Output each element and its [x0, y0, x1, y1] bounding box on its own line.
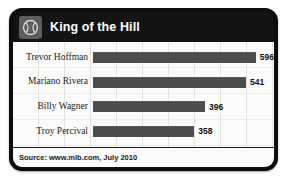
bar-track: 396: [93, 101, 274, 112]
bar-value-label: 541: [250, 78, 264, 87]
bar-track: 358: [93, 126, 274, 137]
bar-category-label: Troy Percival: [13, 127, 93, 137]
chart-footer: Source: www.mlb.com, July 2010: [13, 147, 274, 167]
table-row: Billy Wagner 396: [13, 101, 274, 113]
bar-track: 596: [93, 52, 274, 63]
chart-screenshot: King of the Hill Trevor Hoffman 596 Mari…: [0, 0, 287, 180]
bar-2: [93, 101, 205, 112]
chart-header: King of the Hill: [13, 12, 274, 42]
bar-value-label: 358: [198, 127, 212, 136]
table-row: Troy Percival 358: [13, 126, 274, 138]
bar-track: 541: [93, 77, 274, 88]
bar-3: [93, 126, 194, 137]
table-row: Mariano Rivera 541: [13, 76, 274, 88]
bar-category-label: Mariano Rivera: [13, 77, 93, 87]
bar-1: [93, 77, 246, 88]
bar-value-label: 596: [260, 53, 274, 62]
table-row: Trevor Hoffman 596: [13, 51, 274, 63]
baseball-icon: [19, 16, 42, 39]
bar-0: [93, 52, 256, 63]
source-note: Source: www.mlb.com, July 2010: [19, 153, 137, 162]
chart-card: King of the Hill Trevor Hoffman 596 Mari…: [9, 8, 278, 171]
chart-bar-rows: Trevor Hoffman 596 Mariano Rivera 541 Bi…: [13, 45, 274, 144]
chart-plot-area: Trevor Hoffman 596 Mariano Rivera 541 Bi…: [13, 42, 274, 147]
page-title: King of the Hill: [50, 20, 140, 34]
bar-value-label: 396: [209, 103, 223, 112]
bar-category-label: Trevor Hoffman: [13, 53, 93, 63]
bar-category-label: Billy Wagner: [13, 102, 93, 112]
